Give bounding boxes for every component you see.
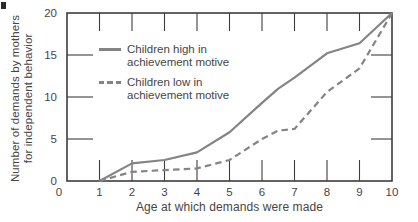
x-tick-label: 6: [259, 186, 265, 198]
legend-label-high: Children high in achievement motive: [127, 43, 229, 69]
x-tick-label: 9: [356, 186, 362, 198]
legend-label-low-line1: Children low in: [127, 76, 229, 89]
y-tick-label: 0: [51, 175, 57, 187]
y-tick-label: 5: [51, 133, 57, 145]
y-tick-label: 15: [44, 49, 57, 61]
legend-entry-high: Children high in achievement motive: [99, 43, 229, 69]
legend-entry-low: Children low in achievement motive: [99, 76, 229, 102]
y-tick-label: 20: [44, 7, 57, 19]
x-tick-label: 1: [96, 186, 102, 198]
x-tick-label: 0: [56, 186, 62, 198]
x-tick-label: 3: [161, 186, 167, 198]
x-tick-label: 7: [291, 186, 297, 198]
x-tick-label: 10: [386, 186, 399, 198]
x-tick-label: 4: [194, 186, 201, 198]
legend-label-high-line1: Children high in: [127, 43, 229, 56]
solid-line-swatch-icon: [99, 48, 121, 51]
x-axis-title: Age at which demands were made: [67, 200, 392, 214]
y-axis-title-line2: for independent behavior: [22, 13, 35, 185]
legend-label-high-line2: achievement motive: [127, 56, 229, 69]
figure: 01234567891005101520 Number of demands b…: [0, 0, 418, 222]
y-tick-label: 10: [44, 91, 57, 103]
dashed-line-swatch-icon: [99, 81, 121, 84]
legend-label-low-line2: achievement motive: [127, 89, 229, 102]
y-axis-title: Number of demands by mothers for indepen…: [9, 13, 36, 185]
chart-svg: 01234567891005101520: [0, 0, 418, 222]
y-axis-title-line1: Number of demands by mothers: [9, 13, 22, 185]
legend: Children high in achievement motive Chil…: [99, 43, 229, 102]
x-tick-label: 8: [324, 186, 330, 198]
x-tick-label: 5: [226, 186, 232, 198]
x-tick-label: 2: [129, 186, 135, 198]
legend-label-low: Children low in achievement motive: [127, 76, 229, 102]
